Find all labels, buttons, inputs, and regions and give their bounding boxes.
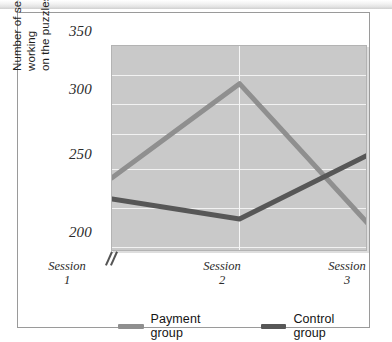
- legend-swatch-payment-group: [118, 324, 144, 329]
- y-axis-title-line1: Number of seconds spent working: [11, 0, 37, 71]
- x-tick-session-3: Session 3: [303, 259, 391, 287]
- figure-frame: Number of seconds spent working on the p…: [17, 12, 370, 328]
- payment-group-line: [112, 84, 367, 223]
- series-lines: [112, 46, 367, 251]
- x-tick-session-2-num: 2: [178, 273, 266, 287]
- legend-label-payment-group: Payment group: [151, 312, 235, 340]
- x-tick-session-1: Session 1: [23, 259, 111, 287]
- x-tick-session-1-num: 1: [23, 273, 111, 287]
- legend-item-control-group[interactable]: Control group: [261, 312, 369, 340]
- legend-item-payment-group[interactable]: Payment group: [118, 312, 235, 340]
- x-tick-session-3-name: Session: [328, 259, 366, 273]
- control-group-line: [112, 155, 367, 219]
- page-edge-band: [0, 0, 392, 9]
- x-tick-session-1-name: Session: [48, 259, 86, 273]
- y-axis-title: Number of seconds spent working on the p…: [10, 0, 52, 71]
- plot-area-wrapper: [111, 45, 367, 251]
- x-tick-session-2-name: Session: [203, 259, 241, 273]
- y-tick-label-250: 250: [50, 146, 92, 163]
- chart-legend: Payment group Control group: [118, 312, 369, 340]
- legend-swatch-control-group: [261, 324, 287, 329]
- y-tick-label-200: 200: [50, 224, 92, 241]
- legend-label-control-group: Control group: [293, 312, 369, 340]
- y-tick-label-350: 350: [50, 23, 92, 40]
- y-tick-label-300: 300: [50, 81, 92, 98]
- x-tick-session-3-num: 3: [303, 273, 391, 287]
- plot-area: [111, 45, 367, 251]
- x-tick-session-2: Session 2: [178, 259, 266, 287]
- figure-page: Number of seconds spent working on the p…: [0, 0, 392, 342]
